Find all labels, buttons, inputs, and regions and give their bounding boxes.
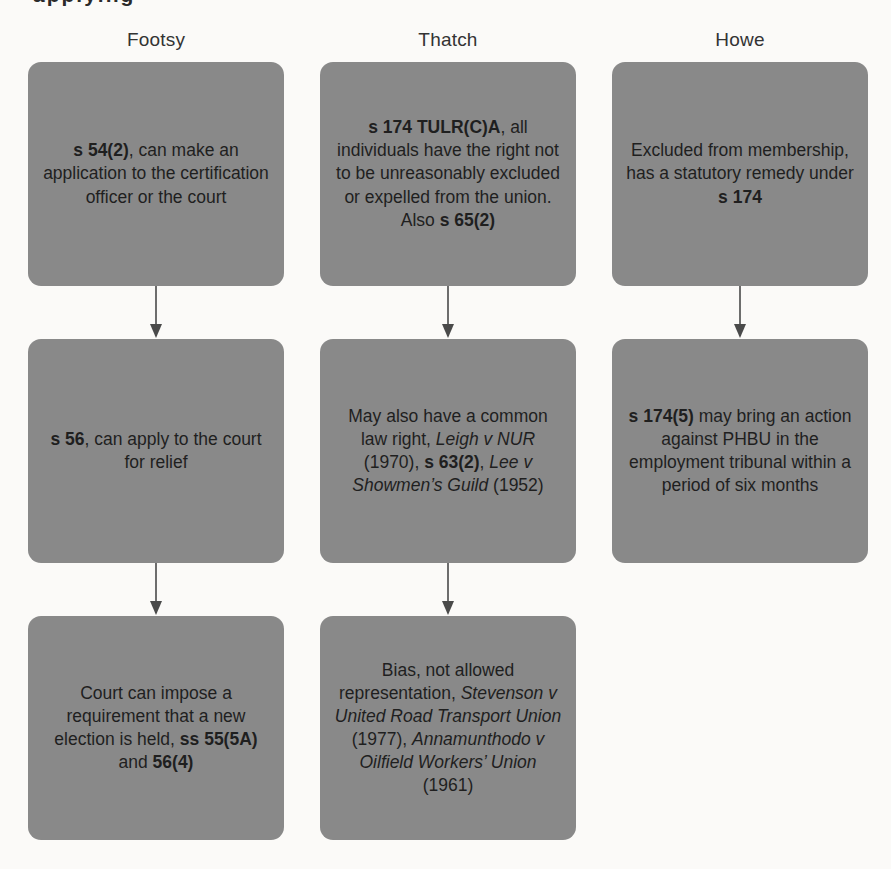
arrow-down-icon bbox=[612, 286, 868, 339]
arrow-down-icon bbox=[28, 286, 284, 339]
flow-box-footsy-3: Court can impose a requirement that a ne… bbox=[28, 616, 284, 840]
flow-box-thatch-3: Bias, not allowed representation, Steven… bbox=[320, 616, 576, 840]
flow-box-howe-1: Excluded from membership, has a statutor… bbox=[612, 62, 868, 286]
column-howe: Howe Excluded from membership, has a sta… bbox=[612, 0, 868, 840]
arrow-down-icon bbox=[28, 563, 284, 616]
flow-box-thatch-1: s 174 TULR(C)A, all individuals have the… bbox=[320, 62, 576, 286]
arrow-down-icon bbox=[320, 286, 576, 339]
column-footsy: Footsy s 54(2), can make an application … bbox=[28, 0, 284, 840]
flow-box-text: Excluded from membership, has a statutor… bbox=[625, 139, 855, 208]
flow-box-howe-2: s 174(5) may bring an action against PHB… bbox=[612, 339, 868, 563]
column-header-thatch: Thatch bbox=[320, 0, 576, 62]
flowchart: Footsy s 54(2), can make an application … bbox=[28, 0, 868, 840]
column-header-footsy: Footsy bbox=[28, 0, 284, 62]
flow-box-footsy-2: s 56, can apply to the court for relief bbox=[28, 339, 284, 563]
flow-box-thatch-2: May also have a common law right, Leigh … bbox=[320, 339, 576, 563]
column-thatch: Thatch s 174 TULR(C)A, all individuals h… bbox=[320, 0, 576, 840]
arrow-down-icon bbox=[320, 563, 576, 616]
flow-box-text: May also have a common law right, Leigh … bbox=[333, 405, 563, 497]
flow-box-text: s 56, can apply to the court for relief bbox=[41, 428, 271, 474]
flow-box-text: s 54(2), can make an application to the … bbox=[41, 139, 271, 208]
column-header-howe: Howe bbox=[612, 0, 868, 62]
flow-box-footsy-1: s 54(2), can make an application to the … bbox=[28, 62, 284, 286]
flow-box-text: s 174(5) may bring an action against PHB… bbox=[625, 405, 855, 497]
flow-box-text: s 174 TULR(C)A, all individuals have the… bbox=[333, 116, 563, 231]
flow-box-text: Bias, not allowed representation, Steven… bbox=[333, 659, 563, 798]
flow-box-text: Court can impose a requirement that a ne… bbox=[41, 682, 271, 774]
